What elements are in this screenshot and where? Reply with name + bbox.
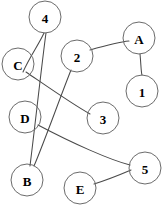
node-label-2: 2 xyxy=(74,50,81,65)
graph-canvas: 4AC21D35BE xyxy=(0,0,167,206)
node-3[interactable]: 3 xyxy=(87,102,119,134)
edge-D-5 xyxy=(38,125,130,165)
node-label-E: E xyxy=(76,182,85,197)
node-E[interactable]: E xyxy=(64,172,96,204)
node-A[interactable]: A xyxy=(123,22,155,54)
edge-A-1 xyxy=(140,54,142,75)
node-label-C: C xyxy=(13,58,22,73)
node-label-B: B xyxy=(23,174,32,189)
node-label-1: 1 xyxy=(139,85,146,100)
node-4[interactable]: 4 xyxy=(29,1,61,33)
node-label-A: A xyxy=(134,32,144,47)
node-B[interactable]: B xyxy=(11,164,43,196)
nodes-layer: 4AC21D35BE xyxy=(2,1,161,204)
node-label-4: 4 xyxy=(42,11,49,26)
node-D[interactable]: D xyxy=(9,101,41,133)
edge-E-5 xyxy=(94,170,131,184)
node-1[interactable]: 1 xyxy=(126,75,158,107)
node-5[interactable]: 5 xyxy=(129,152,161,184)
node-label-5: 5 xyxy=(142,162,149,177)
node-C[interactable]: C xyxy=(2,48,34,80)
node-2[interactable]: 2 xyxy=(61,40,93,72)
node-label-D: D xyxy=(20,111,29,126)
node-label-3: 3 xyxy=(100,112,107,127)
graph-figure: 4AC21D35BE xyxy=(0,0,167,206)
